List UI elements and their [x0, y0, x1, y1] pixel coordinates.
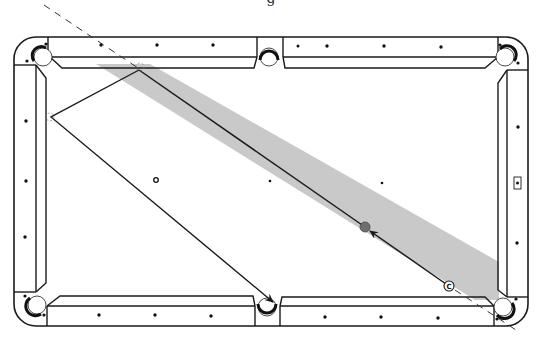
foot-spot: [381, 182, 384, 185]
pocket-top-right: [496, 43, 520, 66]
cue-ball-label: C: [446, 283, 451, 291]
rail-left: [14, 65, 46, 292]
pocket-bottom-middle: [258, 298, 276, 316]
rail-top-right: [283, 37, 498, 68]
object-ball-path: [139, 70, 365, 227]
center-spot: [269, 180, 272, 183]
rail-top-left: [48, 37, 257, 68]
head-string-spot: [154, 178, 159, 183]
object-ball: [360, 222, 370, 232]
pool-table-diagram: g: [0, 0, 542, 343]
cue-ball: C: [444, 281, 454, 291]
right-rail-spot-marker: [514, 177, 521, 189]
diamonds-left: [23, 119, 27, 238]
diamonds-right: [515, 125, 519, 244]
pocket-top-middle: [260, 48, 278, 66]
pocket-bottom-left: [23, 294, 46, 316]
rail-bottom-left: [47, 296, 255, 326]
pocket-bottom-right: [494, 297, 518, 320]
rail-bottom-right: [280, 297, 494, 326]
rail-right: [498, 70, 528, 297]
